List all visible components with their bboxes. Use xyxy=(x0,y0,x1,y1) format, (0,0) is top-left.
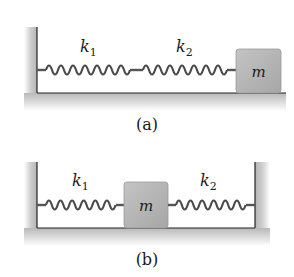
spring-k2-label: k2 xyxy=(200,171,217,193)
floor xyxy=(24,228,270,246)
floor xyxy=(24,93,286,111)
spring-k1-label: k1 xyxy=(72,171,89,193)
panel-b: m k1 k2 (b) xyxy=(24,162,270,269)
left-wall xyxy=(24,27,37,93)
mass-label: m xyxy=(251,63,265,81)
left-wall xyxy=(24,162,37,228)
right-wall xyxy=(255,162,270,228)
mass-label: m xyxy=(139,197,153,215)
spring-mass-diagram: m k1 k2 (a) m k1 k xyxy=(0,0,294,277)
caption-a: (a) xyxy=(136,115,158,134)
spring-k1 xyxy=(37,201,124,210)
spring-k2-label: k2 xyxy=(176,37,193,59)
spring-k2 xyxy=(143,66,237,75)
spring-k1 xyxy=(37,66,143,75)
panel-a: m k1 k2 (a) xyxy=(24,27,286,134)
caption-b: (b) xyxy=(136,250,159,269)
spring-k2 xyxy=(168,201,255,210)
spring-k1-label: k1 xyxy=(80,37,97,59)
